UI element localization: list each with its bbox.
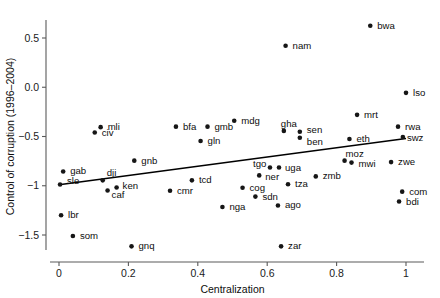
data-point-label-lbr: lbr xyxy=(68,209,79,220)
data-point-label-rwa: rwa xyxy=(405,121,421,132)
y-tick-label: 0.0 xyxy=(24,81,39,93)
data-point-label-ben: ben xyxy=(307,136,323,147)
plot-canvas: 0.50.0−0.5−1−1.500.20.40.60.81 bwanamlso… xyxy=(0,0,440,298)
data-point-label-ken: ken xyxy=(123,180,138,191)
data-point-label-civ: civ xyxy=(102,127,114,138)
data-point-gln xyxy=(198,139,203,144)
data-point-label-bdi: bdi xyxy=(406,196,419,207)
data-point-gnb xyxy=(132,158,137,163)
data-point-label-nam: nam xyxy=(293,40,312,51)
data-point-label-tza: tza xyxy=(295,178,308,189)
data-point-label-tgo: tgo xyxy=(253,158,266,169)
data-point-zar xyxy=(279,244,284,249)
data-point-ben xyxy=(298,135,303,140)
data-point-gab xyxy=(61,169,66,174)
y-tick-label: −1.5 xyxy=(18,229,39,241)
axis-titles: CentralizationControl of corruption (199… xyxy=(4,58,265,295)
data-point-label-caf: caf xyxy=(112,189,125,200)
data-point-label-eth: eth xyxy=(356,133,369,144)
data-point-gmb xyxy=(205,124,210,129)
data-point-label-som: som xyxy=(80,230,98,241)
y-tick-label: 0.5 xyxy=(24,32,39,44)
data-point-label-tcd: tcd xyxy=(199,174,212,185)
data-point-civ xyxy=(92,130,97,135)
x-tick-label: 0.2 xyxy=(121,267,136,279)
data-point-label-nga: nga xyxy=(229,201,246,212)
data-point-label-ago: ago xyxy=(285,199,301,210)
data-point-zmb xyxy=(313,174,318,179)
data-point-ner xyxy=(257,173,262,178)
data-point-label-zwe: zwe xyxy=(398,156,415,167)
data-point-label-gha: gha xyxy=(281,118,298,129)
data-point-label-zar: zar xyxy=(288,240,302,251)
data-point-label-mrt: mrt xyxy=(364,109,378,120)
x-tick-label: 1 xyxy=(403,267,409,279)
data-point-label-gln: gln xyxy=(208,135,221,146)
y-tick-label: −0.5 xyxy=(18,130,39,142)
data-point-eth xyxy=(347,137,352,142)
data-point-sdn xyxy=(253,194,258,199)
x-tick-label: 0.4 xyxy=(190,267,205,279)
data-point-ago xyxy=(276,203,281,208)
data-point-label-gmb: gmb xyxy=(215,121,234,132)
data-point-label-lso: lso xyxy=(413,87,425,98)
data-point-mwi xyxy=(349,160,354,165)
data-point-label-sen: sen xyxy=(307,124,322,135)
data-point-label-gnq: gnq xyxy=(139,240,155,251)
data-point-swz xyxy=(401,135,406,140)
data-point-tgo xyxy=(268,165,273,170)
data-point-label-sle: sle xyxy=(67,175,79,186)
data-point-label-cmr: cmr xyxy=(177,185,194,196)
data-point-label-dji: dji xyxy=(107,167,117,178)
data-point-label-bwa: bwa xyxy=(377,20,395,31)
data-point-label-zmb: zmb xyxy=(323,170,341,181)
data-point-label-ner: ner xyxy=(265,171,280,182)
data-point-cmr xyxy=(168,188,173,193)
data-point-label-swz: swz xyxy=(407,132,424,143)
data-point-lbr xyxy=(59,213,64,218)
data-point-sen xyxy=(298,129,303,134)
data-point-dji xyxy=(100,178,105,183)
data-point-cog xyxy=(240,185,245,190)
data-point-tcd xyxy=(190,178,195,183)
data-point-label-bfa: bfa xyxy=(183,121,197,132)
data-point-bfa xyxy=(174,124,179,129)
data-point-caf xyxy=(105,188,110,193)
data-point-gha xyxy=(282,129,287,134)
data-point-moz xyxy=(342,158,347,163)
x-tick-label: 0.6 xyxy=(260,267,275,279)
x-tick-label: 0 xyxy=(56,267,62,279)
y-tick-label: −1 xyxy=(27,179,39,191)
data-point-bwa xyxy=(368,23,373,28)
y-axis-title: Control of corruption (1996–2004) xyxy=(4,58,16,216)
data-point-bdi xyxy=(397,199,402,204)
data-point-som xyxy=(71,234,76,239)
data-point-zwe xyxy=(389,160,394,165)
data-point-lso xyxy=(404,91,409,96)
scatter-plot-figure: 0.50.0−0.5−1−1.500.20.40.60.81 bwanamlso… xyxy=(0,0,440,298)
data-point-uga xyxy=(277,165,282,170)
data-point-sle xyxy=(58,182,63,187)
data-point-com xyxy=(400,189,405,194)
data-point-tza xyxy=(286,182,291,187)
data-point-gnq xyxy=(129,244,134,249)
data-point-labels: bwanamlsomrtmlibfagmbmdggharwacivglnsenb… xyxy=(67,20,427,252)
data-point-mrt xyxy=(355,113,360,118)
data-point-nam xyxy=(283,43,288,48)
data-point-rwa xyxy=(396,124,401,129)
x-tick-label: 0.8 xyxy=(329,267,344,279)
data-point-label-mwi: mwi xyxy=(359,158,376,169)
x-axis-title: Centralization xyxy=(200,283,264,295)
data-point-label-mdg: mdg xyxy=(241,115,260,126)
data-point-label-uga: uga xyxy=(285,162,302,173)
data-point-nga xyxy=(220,205,225,210)
data-point-label-sdn: sdn xyxy=(262,191,277,202)
data-point-label-gnb: gnb xyxy=(141,155,157,166)
